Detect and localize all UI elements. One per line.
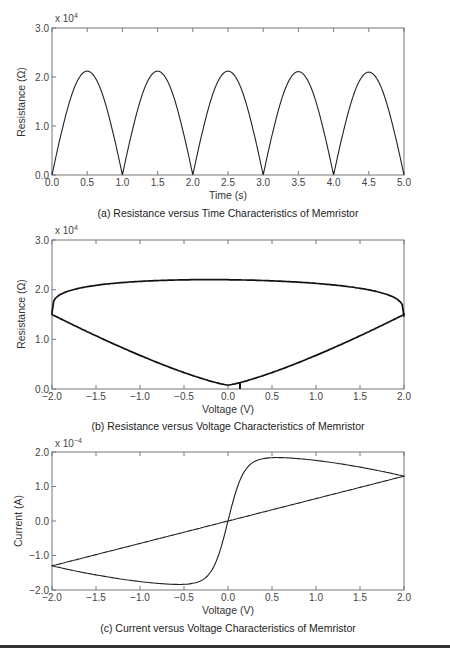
x-tick-label: 1.0 xyxy=(115,177,129,188)
x-tick-label: 3.0 xyxy=(256,177,270,188)
x-tick-label: 1.5 xyxy=(353,391,367,402)
y-tick-label: 1.0 xyxy=(35,334,49,345)
x-tick-label: 0.5 xyxy=(80,177,94,188)
y-tick-label: 1.0 xyxy=(35,481,49,492)
x-tick-label: 2.0 xyxy=(397,592,411,603)
x-tick-label: −1.0 xyxy=(130,391,150,402)
x-tick-label: 0.5 xyxy=(265,592,279,603)
chart-a-x-axis-label: Time (s) xyxy=(209,189,247,201)
chart-a-caption: (a) Resistance versus Time Characteristi… xyxy=(98,207,359,219)
y-tick-label: 2.0 xyxy=(35,447,49,458)
y-tick-label: 0.0 xyxy=(35,384,49,395)
chart-a: 0.00.51.01.52.02.53.03.54.04.55.0 0.01.0… xyxy=(15,12,411,219)
x-tick-label: 0.5 xyxy=(265,391,279,402)
chart-a-y-multiplier: x 104 xyxy=(55,12,78,24)
x-tick-label: −1.5 xyxy=(86,391,106,402)
y-tick-label: −2.0 xyxy=(29,585,49,596)
x-tick-label: 4.5 xyxy=(362,177,376,188)
x-tick-label: 1.0 xyxy=(309,592,323,603)
page-bottom-rule xyxy=(0,645,450,648)
chart-b: −2.0−1.5−1.0−0.50.00.51.01.52.0 0.01.02.… xyxy=(15,224,411,432)
x-tick-label: 1.0 xyxy=(309,391,323,402)
chart-c-current-loop xyxy=(52,458,404,585)
chart-c-y-multiplier: x 10−4 xyxy=(55,437,82,449)
x-tick-label: 1.5 xyxy=(353,592,367,603)
chart-c-caption: (c) Current versus Voltage Characteristi… xyxy=(100,622,356,634)
x-tick-label: 2.0 xyxy=(186,177,200,188)
chart-c: −2.0−1.5−1.0−0.50.00.51.01.52.0 −2.0−1.0… xyxy=(12,437,411,634)
x-tick-label: 3.5 xyxy=(291,177,305,188)
chart-b-x-ticks: −2.0−1.5−1.0−0.50.00.51.01.52.0 xyxy=(42,240,411,402)
x-tick-label: 0.0 xyxy=(221,391,235,402)
y-tick-label: 1.0 xyxy=(35,121,49,132)
x-tick-label: 1.5 xyxy=(151,177,165,188)
y-tick-label: 0.0 xyxy=(35,516,49,527)
chart-c-x-axis-label: Voltage (V) xyxy=(202,604,254,616)
chart-a-y-ticks: 0.01.02.03.0 xyxy=(35,23,56,181)
chart-b-y-multiplier: x 104 xyxy=(55,224,78,236)
chart-a-y-axis-label: Resistance (Ω) xyxy=(15,67,27,137)
y-tick-label: 2.0 xyxy=(35,284,49,295)
chart-a-x-ticks: 0.00.51.01.52.02.53.03.54.04.55.0 xyxy=(45,28,411,188)
y-tick-label: −1.0 xyxy=(29,550,49,561)
x-tick-label: 5.0 xyxy=(397,177,411,188)
x-tick-label: −1.5 xyxy=(86,592,106,603)
chart-c-y-axis-label: Current (A) xyxy=(12,495,24,547)
x-tick-label: −0.5 xyxy=(174,592,194,603)
x-tick-label: 0.0 xyxy=(221,592,235,603)
x-tick-label: −0.5 xyxy=(174,391,194,402)
chart-a-resistance-curve xyxy=(52,71,404,175)
figure-canvas: 0.00.51.01.52.02.53.03.54.04.55.0 0.01.0… xyxy=(0,0,450,649)
x-tick-label: 2.5 xyxy=(221,177,235,188)
x-tick-label: −1.0 xyxy=(130,592,150,603)
chart-b-plot-frame xyxy=(52,240,404,389)
chart-b-caption: (b) Resistance versus Voltage Characteri… xyxy=(91,420,365,432)
y-tick-label: 2.0 xyxy=(35,72,49,83)
y-tick-label: 3.0 xyxy=(35,235,49,246)
x-tick-label: 4.0 xyxy=(327,177,341,188)
chart-b-x-axis-label: Voltage (V) xyxy=(202,403,254,415)
x-tick-label: 2.0 xyxy=(397,391,411,402)
y-tick-label: 3.0 xyxy=(35,23,49,34)
chart-b-y-axis-label: Resistance (Ω) xyxy=(15,279,27,349)
y-tick-label: 0.0 xyxy=(35,170,49,181)
chart-b-resistance-loop xyxy=(52,280,404,385)
